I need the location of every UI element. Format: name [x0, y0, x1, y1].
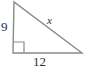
label-vertical-leg: 9 — [1, 20, 8, 33]
triangle-outline — [13, 2, 82, 53]
label-hypotenuse: x — [47, 15, 52, 26]
label-horizontal-leg: 12 — [33, 55, 46, 68]
right-angle-marker-icon — [13, 42, 24, 53]
geometry-figure: 9 12 x — [0, 0, 88, 72]
